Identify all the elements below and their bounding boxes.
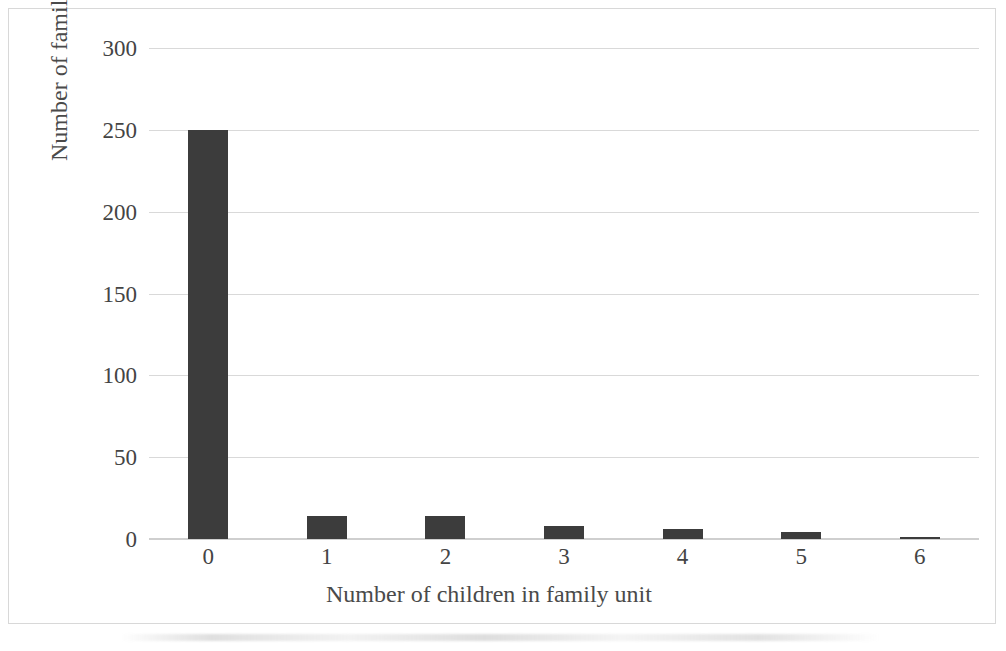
x-tick-label: 2 bbox=[415, 543, 475, 571]
gridline bbox=[149, 130, 979, 131]
x-tick-label: 0 bbox=[178, 543, 238, 571]
gridline bbox=[149, 457, 979, 458]
bar bbox=[307, 516, 347, 539]
gridline bbox=[149, 48, 979, 49]
bar bbox=[900, 537, 940, 539]
plot-area bbox=[149, 48, 979, 539]
bar bbox=[544, 526, 584, 539]
bar bbox=[781, 532, 821, 539]
y-tick-label: 50 bbox=[57, 446, 137, 469]
y-tick-label: 100 bbox=[57, 364, 137, 387]
bar bbox=[663, 529, 703, 539]
x-tick-label: 1 bbox=[297, 543, 357, 571]
bar bbox=[188, 130, 228, 539]
x-axis-title: Number of children in family unit bbox=[189, 581, 789, 608]
gridline bbox=[149, 375, 979, 376]
y-tick-label: 200 bbox=[57, 201, 137, 224]
y-tick-label: 250 bbox=[57, 119, 137, 142]
x-axis-tick-labels: 0123456 bbox=[149, 543, 979, 577]
gridline bbox=[149, 212, 979, 213]
y-axis-tick-labels: 050100150200250300 bbox=[53, 48, 137, 539]
y-tick-label: 300 bbox=[57, 37, 137, 60]
x-tick-label: 5 bbox=[771, 543, 831, 571]
bar bbox=[425, 516, 465, 539]
x-tick-label: 4 bbox=[653, 543, 713, 571]
x-tick-label: 3 bbox=[534, 543, 594, 571]
y-tick-label: 150 bbox=[57, 283, 137, 306]
chart-frame: Number of families 050100150200250300 01… bbox=[8, 8, 996, 624]
gridline bbox=[149, 294, 979, 295]
scan-artifact-band bbox=[0, 630, 1006, 651]
x-tick-label: 6 bbox=[890, 543, 950, 571]
y-tick-label: 0 bbox=[57, 528, 137, 551]
